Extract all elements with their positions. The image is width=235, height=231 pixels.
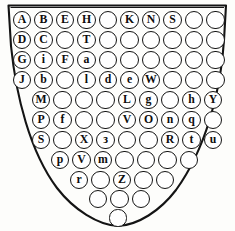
roundel-blank[interactable] bbox=[109, 209, 126, 226]
roundel-row bbox=[0, 0, 235, 231]
shield-letter-grid-figure: ABEHKNSDCTGiFaJbldeWMLghYPfVOnqSXзRtupVm… bbox=[0, 0, 235, 231]
roundel-grid: ABEHKNSDCTGiFaJbldeWMLghYPfVOnqSXзRtupVm… bbox=[0, 0, 235, 231]
